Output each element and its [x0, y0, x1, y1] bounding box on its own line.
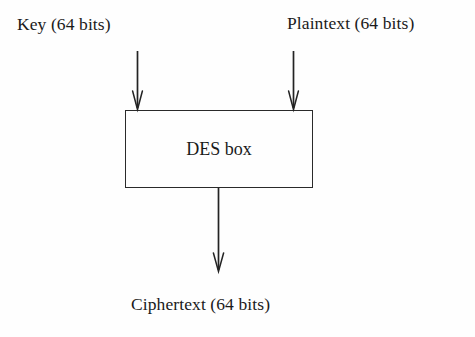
- des-box-rectangle: DES box: [125, 110, 313, 188]
- des-block-diagram: Key (64 bits) Plaintext (64 bits) DES bo…: [0, 0, 475, 337]
- plaintext-input-arrow: [289, 51, 299, 110]
- ciphertext-output-label: Ciphertext (64 bits): [131, 296, 270, 314]
- ciphertext-output-arrow: [213, 188, 223, 272]
- plaintext-input-label: Plaintext (64 bits): [287, 15, 414, 33]
- des-box-label: DES box: [126, 140, 312, 158]
- key-input-label: Key (64 bits): [17, 16, 111, 34]
- key-input-arrow: [133, 51, 143, 110]
